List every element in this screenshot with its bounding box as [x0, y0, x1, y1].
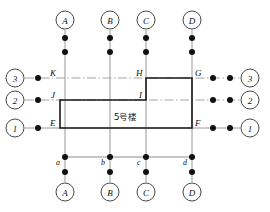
axis-bubble-label: 3 — [12, 74, 18, 84]
axis-bubble-top-A[interactable]: A — [56, 11, 74, 29]
station-dot — [189, 35, 195, 41]
axis-bubble-top-B[interactable]: B — [101, 11, 119, 29]
base-label-a: a — [56, 159, 60, 167]
axis-bubble-bottom-B[interactable]: B — [101, 183, 119, 201]
station-dot — [143, 154, 149, 160]
axis-bubbles-left: 3 2 1 — [6, 69, 24, 137]
station-dot — [227, 97, 233, 103]
axis-bubble-top-D[interactable]: D — [183, 11, 201, 29]
diagram-canvas: A B C D A B — [0, 0, 270, 212]
station-dot — [189, 49, 195, 55]
corner-label-G: G — [195, 69, 202, 78]
station-dot — [227, 125, 233, 131]
axis-bubbles-bottom: A B C D — [56, 183, 201, 201]
station-dot — [189, 169, 195, 175]
corner-label-I: I — [139, 91, 142, 100]
axis-bubble-left-3[interactable]: 3 — [6, 69, 24, 87]
axis-bubble-right-3[interactable]: 3 — [241, 69, 259, 87]
axis-grid-drawing: A B C D A B — [0, 0, 270, 212]
axis-bubble-bottom-C[interactable]: C — [137, 183, 155, 201]
corner-label-K: K — [50, 69, 56, 78]
axis-bubble-label: B — [107, 16, 113, 26]
axis-bubble-label: 1 — [248, 124, 253, 134]
station-dot — [62, 35, 68, 41]
station-dot — [189, 154, 195, 160]
axis-bubble-label: 2 — [248, 96, 253, 106]
station-dot — [62, 154, 68, 160]
station-dot — [62, 49, 68, 55]
axis-bubble-label: 1 — [13, 124, 18, 134]
axis-bubble-left-1[interactable]: 1 — [6, 119, 24, 137]
axis-bubble-label: C — [143, 188, 150, 198]
corner-label-H: H — [136, 69, 143, 78]
station-dot — [35, 97, 41, 103]
station-dot — [143, 49, 149, 55]
station-dot — [210, 97, 216, 103]
station-dot — [107, 35, 113, 41]
station-dot — [143, 169, 149, 175]
corner-label-E: E — [50, 119, 56, 128]
station-dot — [143, 35, 149, 41]
station-dot — [35, 125, 41, 131]
axis-bubble-label: D — [188, 188, 196, 198]
station-dot — [107, 169, 113, 175]
axis-bubble-bottom-D[interactable]: D — [183, 183, 201, 201]
axis-bubble-bottom-A[interactable]: A — [56, 183, 74, 201]
axis-bubbles-right: 3 2 1 — [241, 69, 259, 137]
axis-bubble-right-1[interactable]: 1 — [241, 119, 259, 137]
station-dot — [62, 169, 68, 175]
axis-bubble-top-C[interactable]: C — [137, 11, 155, 29]
base-label-b: b — [101, 159, 105, 167]
station-dot — [210, 125, 216, 131]
station-dot — [107, 154, 113, 160]
axis-bubble-label: 2 — [13, 96, 18, 106]
corner-label-F: F — [195, 119, 201, 128]
axis-bubbles-top: A B C D — [56, 11, 201, 29]
axis-bubble-label: A — [61, 16, 68, 26]
axis-bubble-label: D — [188, 16, 196, 26]
station-dot — [35, 75, 41, 81]
station-dot — [227, 75, 233, 81]
station-dot — [107, 49, 113, 55]
axis-bubble-right-2[interactable]: 2 — [241, 91, 259, 109]
station-dot — [210, 75, 216, 81]
axis-bubble-label: A — [61, 188, 68, 198]
corner-label-J: J — [51, 91, 55, 100]
base-label-c: c — [137, 159, 141, 167]
building-name-label: 5号楼 — [114, 110, 137, 122]
axis-bubble-label: B — [107, 188, 113, 198]
axis-bubble-label: C — [143, 16, 150, 26]
axis-bubble-label: 3 — [247, 74, 253, 84]
base-label-d: d — [183, 159, 187, 167]
vertical-gridlines — [65, 30, 192, 182]
axis-bubble-left-2[interactable]: 2 — [6, 91, 24, 109]
